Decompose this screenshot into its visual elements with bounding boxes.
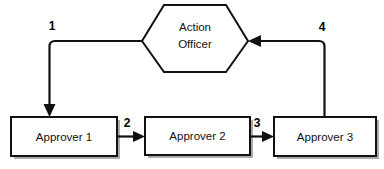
approver-1-label: Approver 1 (36, 131, 92, 143)
flowchart-svg: 1 4 Action Officer Approver 1 2 (0, 0, 384, 169)
edge-1-arrowhead (44, 104, 56, 117)
edge-4-path (258, 41, 325, 117)
approver-3-label: Approver 3 (297, 131, 353, 143)
edge-4-number: 4 (319, 20, 326, 34)
edge-3-number: 3 (254, 116, 261, 130)
edge-3-group: 3 (250, 116, 274, 142)
node-approver-2[interactable]: Approver 2 (145, 117, 253, 158)
edge-4-group: 4 (248, 20, 326, 117)
edge-1-group: 1 (44, 19, 143, 117)
edge-1-path (50, 41, 143, 107)
node-approver-1[interactable]: Approver 1 (11, 117, 120, 159)
edge-2-group: 2 (117, 116, 145, 142)
node-approver-3[interactable]: Approver 3 (274, 117, 379, 159)
edge-3-arrowhead (262, 131, 274, 142)
edge-1-number: 1 (49, 19, 56, 33)
action-officer-label-line-1: Action (179, 21, 211, 33)
edge-2-arrowhead (133, 131, 145, 142)
edge-4-arrowhead (248, 35, 261, 47)
edge-2-number: 2 (124, 116, 131, 130)
diagram-canvas: 1 4 Action Officer Approver 1 2 (0, 0, 384, 169)
node-action-officer[interactable]: Action Officer (142, 5, 248, 72)
approver-2-label: Approver 2 (169, 130, 225, 142)
action-officer-label-line-2: Officer (178, 38, 212, 50)
